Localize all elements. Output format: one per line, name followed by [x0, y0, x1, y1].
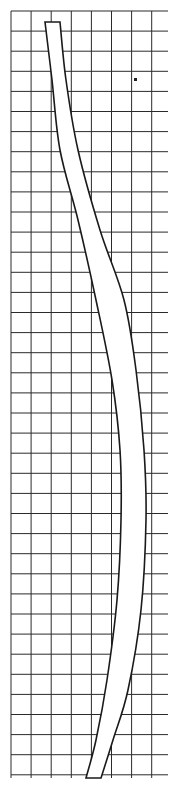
- ink-dot: [134, 78, 137, 81]
- grid-drawing: [0, 0, 182, 791]
- grid-paper: [11, 11, 168, 778]
- curved-strip: [45, 22, 146, 778]
